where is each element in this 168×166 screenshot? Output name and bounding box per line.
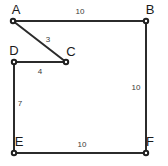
vertex-dot-d xyxy=(12,60,16,64)
vertex-dot-b xyxy=(144,19,148,23)
edge-ca xyxy=(13,21,66,62)
vertex-markers xyxy=(11,19,148,155)
edge-length-label-ab: 10 xyxy=(76,7,85,16)
edge-length-labels: 101010743 xyxy=(18,7,141,149)
edge-length-label-ed: 7 xyxy=(18,99,23,108)
polygon-diagram-canvas: 101010743 ABCDEF xyxy=(0,0,168,166)
vertex-label-f: F xyxy=(146,134,154,149)
vertex-label-b: B xyxy=(146,2,155,17)
edge-length-label-bf: 10 xyxy=(132,83,141,92)
vertex-label-d: D xyxy=(9,43,18,58)
edge-length-label-dc: 4 xyxy=(38,67,43,76)
polygon-edges xyxy=(13,21,146,153)
edge-length-label-fe: 10 xyxy=(78,140,87,149)
edge-length-label-ca: 3 xyxy=(46,35,51,44)
geometry-figure: 101010743 ABCDEF xyxy=(0,0,168,166)
vertex-dot-a xyxy=(11,19,15,23)
vertex-label-c: C xyxy=(66,44,75,59)
vertex-dot-f xyxy=(144,151,148,155)
vertex-label-e: E xyxy=(15,134,24,149)
vertex-dot-c xyxy=(64,60,68,64)
vertex-dot-e xyxy=(12,151,16,155)
vertex-letter-labels: ABCDEF xyxy=(9,2,154,149)
vertex-label-a: A xyxy=(12,2,21,17)
